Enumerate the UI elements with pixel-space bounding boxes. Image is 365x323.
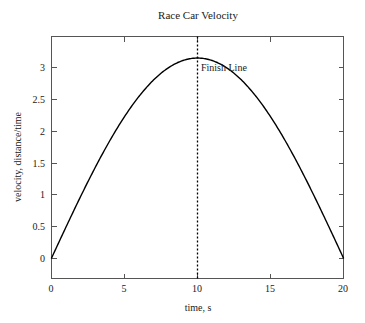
x-tick-labels: 0 5 10 15 20 <box>49 283 349 294</box>
x-tick-label: 15 <box>265 283 275 294</box>
y-tick-labels: 0 0.5 1 1.5 2 2.5 3 <box>33 62 46 264</box>
chart-title: Race Car Velocity <box>158 9 238 21</box>
y-tick-label: 2 <box>40 126 45 137</box>
finish-line-label: Finish Line <box>201 62 247 73</box>
x-tick-label: 10 <box>192 283 202 294</box>
y-tick-label: 0 <box>40 253 45 264</box>
y-tick-label: 0.5 <box>33 221 46 232</box>
y-tick-label: 3 <box>40 62 45 73</box>
chart-figure: Race Car Velocity 0 5 10 15 20 0 0.5 1 1… <box>0 0 365 323</box>
y-tick-label: 1.5 <box>33 158 46 169</box>
x-tick-label: 5 <box>122 283 127 294</box>
y-tick-label: 2.5 <box>33 94 46 105</box>
x-tick-label: 0 <box>49 283 54 294</box>
y-tick-label: 1 <box>40 189 45 200</box>
x-tick-label: 20 <box>338 283 348 294</box>
race-car-velocity-chart: Race Car Velocity 0 5 10 15 20 0 0.5 1 1… <box>0 0 365 323</box>
x-axis-title: time, s <box>185 302 212 313</box>
y-axis-title: velocity, distance/time <box>12 112 23 202</box>
